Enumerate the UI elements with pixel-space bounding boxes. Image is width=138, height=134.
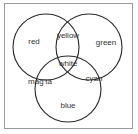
label-green: green — [96, 38, 116, 47]
venn-diagram: red yellow green white mag'ta cyan blue — [0, 0, 138, 134]
venn-svg: red yellow green white mag'ta cyan blue — [0, 0, 138, 134]
label-blue: blue — [60, 101, 76, 110]
label-red: red — [28, 37, 40, 46]
label-white: white — [58, 59, 78, 68]
label-yellow: yellow — [57, 31, 79, 40]
label-magenta: mag'ta — [28, 77, 52, 86]
label-cyan: cyan — [86, 74, 103, 83]
